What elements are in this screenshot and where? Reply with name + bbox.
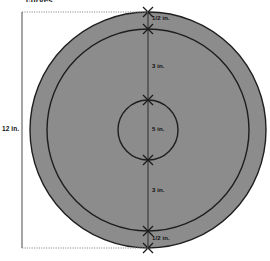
- label-bottom-three-inch: 3 in.: [152, 187, 165, 193]
- overall-dimension-label: 12 in.: [2, 126, 19, 133]
- target-diagram-svg: [0, 0, 270, 261]
- label-bottom-half-inch: 1/2 in.: [152, 235, 170, 241]
- label-center-five-inch: 5 in.: [152, 126, 165, 132]
- label-top-half-inch: 1/2 in.: [152, 15, 170, 21]
- label-top-three-inch: 3 in.: [152, 63, 165, 69]
